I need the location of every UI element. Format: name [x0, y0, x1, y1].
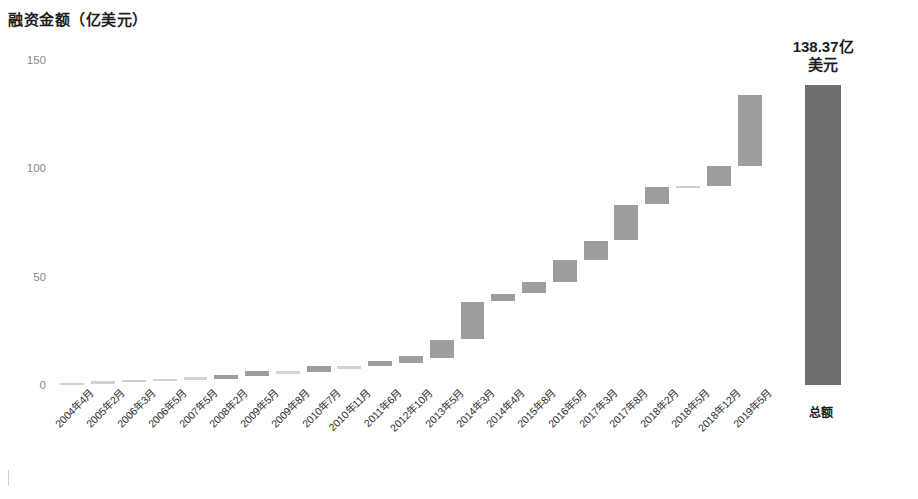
bar-16 — [553, 260, 577, 282]
bar-17 — [584, 241, 608, 261]
bar-7 — [276, 371, 300, 374]
y-axis: 050100150 — [0, 60, 52, 385]
bar-13 — [461, 302, 485, 340]
total-data-label-line2: 美元 — [763, 56, 883, 74]
bar-9 — [337, 366, 361, 369]
bar-21 — [707, 166, 731, 186]
x-axis: 2004年4月2005年2月2006年3月2006年5月2007年5月2008年… — [57, 385, 912, 465]
bar-3 — [153, 379, 177, 381]
bar-18 — [614, 205, 638, 240]
bar-11 — [399, 356, 423, 363]
bar-14 — [491, 294, 515, 301]
bar-22 — [738, 95, 762, 167]
bar-19 — [645, 187, 669, 204]
waterfall-chart: 融资金额（亿美元） 050100150 2004年4月2005年2月2006年3… — [0, 0, 918, 499]
bar-6 — [245, 371, 269, 376]
bar-10 — [368, 361, 392, 367]
bar-12 — [430, 340, 454, 359]
y-axis-tick-50: 50 — [33, 271, 46, 283]
bar-5 — [214, 375, 238, 379]
bar-2 — [122, 380, 146, 382]
bar-15 — [522, 282, 546, 293]
y-axis-tick-150: 150 — [27, 54, 46, 66]
bar-8 — [307, 366, 331, 371]
plot-area — [57, 60, 912, 385]
x-axis-tick-23: 总额 — [809, 403, 833, 420]
total-data-label: 138.37亿 美元 — [763, 38, 883, 73]
bar-20 — [676, 186, 700, 188]
bar-total — [805, 85, 841, 385]
total-data-label-line1: 138.37亿 — [793, 38, 854, 55]
y-axis-tick-100: 100 — [27, 162, 46, 174]
page-edge-mark — [8, 470, 9, 486]
bar-1 — [91, 381, 115, 384]
y-axis-tick-0: 0 — [40, 379, 46, 391]
bar-4 — [184, 377, 208, 380]
page-title: 融资金额（亿美元） — [8, 8, 148, 29]
